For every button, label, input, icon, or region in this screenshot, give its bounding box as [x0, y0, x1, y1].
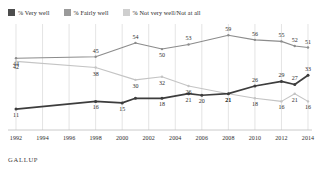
- point-label: 50: [159, 52, 165, 58]
- data-point: [121, 101, 124, 104]
- x-tick-label: 2004: [169, 134, 181, 142]
- data-point: [161, 97, 164, 100]
- point-label: 42: [13, 64, 19, 70]
- point-label: 54: [132, 34, 138, 40]
- point-label: 26: [186, 89, 192, 95]
- point-label: 16: [93, 104, 99, 110]
- point-label: 16: [305, 104, 311, 110]
- data-point: [307, 46, 309, 48]
- data-point: [15, 108, 18, 111]
- data-point: [280, 100, 282, 102]
- gallup-line-chart: % Very well % Fairly well % Not very wel…: [0, 0, 315, 176]
- data-point: [294, 92, 296, 94]
- data-point: [134, 97, 137, 100]
- point-label: 21: [292, 97, 298, 103]
- data-point: [253, 85, 256, 88]
- point-label: 51: [305, 39, 311, 45]
- x-tick-label: 1994: [36, 134, 48, 142]
- chart-svg: 4445545053595655525142383032262118162116…: [0, 22, 315, 132]
- data-point: [227, 92, 230, 95]
- point-label: 33: [305, 66, 311, 72]
- point-label: 45: [93, 48, 99, 54]
- data-point: [187, 43, 189, 45]
- data-point: [307, 100, 309, 102]
- x-tick-label: 2006: [196, 134, 208, 142]
- legend-swatch-fairly-well: [64, 9, 71, 16]
- point-label: 20: [199, 98, 205, 104]
- legend-item-very-well: % Very well: [8, 9, 50, 16]
- point-label: 59: [225, 26, 231, 32]
- data-point: [134, 42, 136, 44]
- point-label: 29: [278, 72, 284, 78]
- point-label: 21: [225, 97, 231, 103]
- data-point: [94, 66, 96, 68]
- point-label: 30: [132, 83, 138, 89]
- legend-label-fairly-well: % Fairly well: [74, 9, 109, 16]
- point-label: 21: [186, 97, 192, 103]
- point-label: 18: [252, 101, 258, 107]
- source-attribution: GALLUP: [8, 156, 38, 163]
- legend-swatch-not-very-well: [123, 9, 130, 16]
- point-label: 15: [119, 106, 125, 112]
- data-point: [280, 40, 282, 42]
- point-label: 18: [159, 101, 165, 107]
- legend-label-very-well: % Very well: [18, 9, 50, 16]
- x-tick-label: 2010: [249, 134, 261, 142]
- data-point: [293, 83, 296, 86]
- chart-legend: % Very well % Fairly well % Not very wel…: [8, 6, 201, 18]
- point-label: 38: [93, 71, 99, 77]
- plot-area: 4445545053595655525142383032262118162116…: [0, 22, 315, 132]
- point-label: 55: [278, 32, 284, 38]
- legend-swatch-very-well: [8, 9, 15, 16]
- x-tick-label: 1992: [10, 134, 22, 142]
- x-tick-label: 2000: [116, 134, 128, 142]
- series-layer: [15, 34, 310, 111]
- x-tick-label: 2008: [222, 134, 234, 142]
- legend-item-not-very-well: % Not very well/Not at all: [123, 9, 201, 16]
- point-label: 32: [159, 80, 165, 86]
- x-tick-label: 2014: [302, 134, 314, 142]
- data-point: [161, 76, 163, 78]
- data-point: [134, 79, 136, 81]
- x-tick-label: 1998: [89, 134, 101, 142]
- data-point: [254, 97, 256, 99]
- data-point: [94, 56, 96, 58]
- legend-label-not-very-well: % Not very well/Not at all: [133, 9, 201, 16]
- data-point: [161, 48, 163, 50]
- x-tick-label: 2012: [275, 134, 287, 142]
- point-label: 11: [13, 112, 19, 118]
- data-point: [200, 94, 203, 97]
- data-point: [307, 74, 310, 77]
- data-point: [280, 80, 283, 83]
- data-point: [294, 45, 296, 47]
- point-label: 56: [252, 31, 258, 37]
- point-label: 27: [292, 75, 298, 81]
- data-point: [94, 100, 97, 103]
- data-point: [15, 57, 17, 59]
- x-axis: 1992199419961998200020022004200620082010…: [0, 132, 315, 146]
- x-tick-label: 1996: [63, 134, 75, 142]
- point-label: 26: [252, 77, 258, 83]
- point-label: 52: [292, 37, 298, 43]
- x-tick-label: 2002: [143, 134, 155, 142]
- point-label: 53: [186, 35, 192, 41]
- point-label: 16: [278, 104, 284, 110]
- data-point: [187, 85, 189, 87]
- data-point: [254, 39, 256, 41]
- data-point: [227, 34, 229, 36]
- legend-item-fairly-well: % Fairly well: [64, 9, 109, 16]
